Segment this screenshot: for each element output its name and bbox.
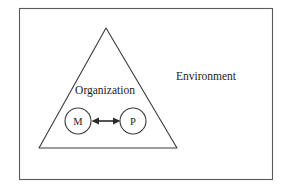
organization-label: Organization — [75, 84, 135, 97]
node-m-label: M — [73, 116, 83, 127]
outer-frame — [20, 9, 273, 180]
diagram-figure: Environment Organization M P — [0, 0, 289, 189]
diagram-canvas: Environment Organization M P — [0, 0, 289, 189]
node-p-label: P — [130, 116, 136, 127]
environment-label: Environment — [176, 70, 237, 82]
